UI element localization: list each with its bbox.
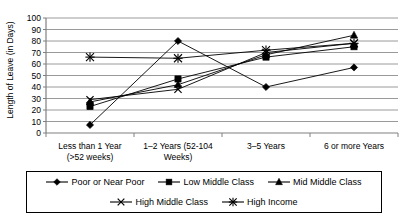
legend-label: High Income: [247, 198, 298, 207]
legend-item-high-middle-class[interactable]: High Middle Class: [110, 196, 208, 208]
y-tick-label: 90: [32, 25, 42, 35]
legend-marker-cross: [110, 196, 132, 208]
y-tick-label: 0: [36, 128, 41, 138]
y-tick-label: 10: [32, 117, 42, 127]
legend-marker-triangle: [268, 176, 290, 188]
x-tick-labels: Less than 1 Year(>52 weeks)1–2 Years (52…: [46, 133, 398, 162]
data-point-asterisk: [261, 46, 270, 55]
legend-row-2: High Middle ClassHigh Income: [27, 192, 381, 212]
x-tick-label: 1–2 Years (52-104: [143, 141, 213, 151]
legend-marker-asterisk: [222, 196, 244, 208]
data-point-square: [167, 179, 173, 185]
legend-marker-diamond: [46, 176, 68, 188]
chart-container: Length of Leave (in Days) 01020304050607…: [0, 0, 408, 218]
data-point-asterisk: [349, 39, 358, 48]
y-tick-label: 20: [32, 105, 42, 115]
y-tick-label: 100: [27, 13, 41, 23]
data-point-triangle: [350, 31, 357, 38]
data-point-diamond: [350, 64, 357, 71]
legend-item-mid-middle-class[interactable]: Mid Middle Class: [268, 176, 362, 188]
y-tick-label: 80: [32, 36, 42, 46]
legend-marker-square: [158, 176, 180, 188]
data-point-diamond: [54, 179, 61, 186]
y-tick-labels: 0102030405060708090100: [27, 13, 46, 138]
data-point-asterisk: [85, 53, 94, 62]
legend-symbol: [110, 196, 132, 208]
plot-area: 0102030405060708090100 Less than 1 Year(…: [0, 0, 408, 170]
y-tick-label: 50: [32, 71, 42, 81]
legend-row-1: Poor or Near PoorLow Middle ClassMid Mid…: [27, 172, 381, 192]
legend-label: Low Middle Class: [183, 178, 254, 187]
legend-symbol: [268, 176, 290, 188]
y-tick-label: 30: [32, 94, 42, 104]
legend-symbol: [158, 176, 180, 188]
series-line-diamond: [90, 41, 354, 125]
x-tick-label: Weeks): [164, 152, 193, 162]
data-point-asterisk: [229, 198, 237, 206]
legend-label: High Middle Class: [135, 198, 208, 207]
chart-legend: Poor or Near PoorLow Middle ClassMid Mid…: [26, 171, 382, 213]
legend-label: Poor or Near Poor: [71, 178, 144, 187]
x-tick-label: 3–5 Years: [247, 141, 285, 151]
legend-item-poor-or-near-poor[interactable]: Poor or Near Poor: [46, 176, 144, 188]
data-point-asterisk: [173, 54, 182, 63]
x-tick-label: 6 or more Years: [324, 141, 384, 151]
series-lines: [90, 35, 354, 125]
x-tick-label: (>52 weeks): [67, 152, 114, 162]
legend-symbol: [222, 196, 244, 208]
x-tick-label: Less than 1 Year: [58, 141, 122, 151]
legend-item-low-middle-class[interactable]: Low Middle Class: [158, 176, 254, 188]
y-tick-label: 60: [32, 59, 42, 69]
legend-label: Mid Middle Class: [293, 178, 362, 187]
y-tick-label: 40: [32, 82, 42, 92]
data-point-diamond: [262, 83, 269, 90]
series-line-triangle: [90, 35, 354, 102]
y-tick-label: 70: [32, 48, 42, 58]
legend-item-high-income[interactable]: High Income: [222, 196, 298, 208]
series-line-asterisk: [90, 43, 354, 58]
legend-symbol: [46, 176, 68, 188]
